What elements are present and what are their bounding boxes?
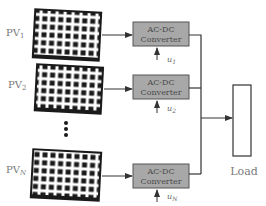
load-label: Load [230,165,258,178]
svg-text:Converter: Converter [141,177,182,186]
svg-text:Converter: Converter [141,35,182,44]
control-label-1: u1 [167,55,176,65]
control-label-2: u2 [167,104,176,114]
output-bus [189,35,201,174]
pv-label-n: PVN [6,164,27,177]
svg-text:Converter: Converter [141,88,182,97]
converter-n: AC-DC Converter uN [133,164,189,202]
pv-panel-2: PV2 [8,63,104,114]
svg-text:AC-DC: AC-DC [146,78,174,87]
pv-label-2: PV2 [8,79,26,92]
svg-text:AC-DC: AC-DC [146,167,174,176]
load: Load [230,85,258,178]
pv-panel-1: PV1 [6,8,102,61]
control-label-n: uN [167,192,178,202]
ellipsis-dots [64,121,68,137]
converter-2: AC-DC Converter u2 [133,75,189,114]
pv-label-1: PV1 [6,27,24,40]
pv-system-diagram: PV1 PV2 PVN AC-DC Converter u1 AC-D [0,0,266,206]
converter-1: AC-DC Converter u1 [133,22,189,65]
pv-panel-n: PVN [6,148,102,202]
svg-text:AC-DC: AC-DC [146,25,174,34]
